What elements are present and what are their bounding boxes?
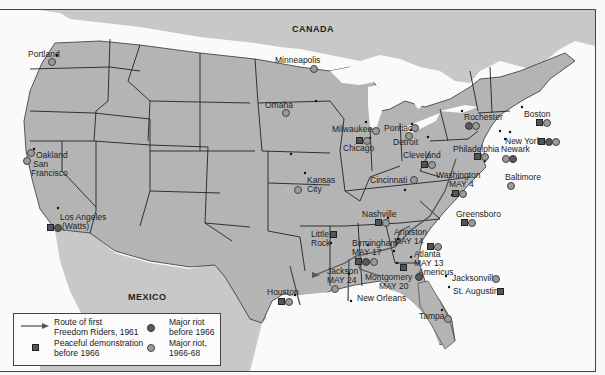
city-label-boston: Boston <box>524 110 550 119</box>
city-label-tampa: Tampa <box>419 312 445 321</box>
riot-1966-68-marker <box>294 186 302 194</box>
peaceful-demonstration-marker <box>375 219 382 226</box>
riot-1966-68-marker <box>331 285 339 293</box>
riot-1966-68-marker <box>428 161 436 169</box>
map-legend: Route of first Freedom Riders, 1961 Peac… <box>13 313 221 366</box>
route-date-montgomery: MAY 20 <box>379 282 408 291</box>
riot-1966-68-marker <box>27 149 35 157</box>
city-label-detroit: Detroit <box>393 138 418 147</box>
legend-riot-after-label: Major riot, 1966-68 <box>169 339 207 358</box>
riot-before-1966-marker <box>54 224 62 232</box>
legend-riot-before-label: Major riot before 1966 <box>169 318 214 337</box>
city-label-jacksonville: Jacksonville <box>452 274 498 283</box>
peaceful-demonstration-marker <box>452 190 459 197</box>
riot-before-1966-marker <box>362 258 370 266</box>
legend-route-label: Route of first Freedom Riders, 1961 <box>54 318 139 337</box>
riot-1966-68-marker <box>363 137 371 145</box>
riot-before-1966-icon <box>147 324 155 332</box>
city-label-cincinnati: Cincinnati <box>370 176 407 185</box>
city-label-st-augustine: St. Augustine <box>453 287 503 296</box>
city-label-san-francisco-line2: Francisco <box>31 169 68 178</box>
city-label-little-rock-line2: Rock <box>311 239 330 248</box>
city-label-americus: Americus <box>418 268 453 277</box>
riot-1966-68-marker <box>410 176 418 184</box>
route-date-jackson: MAY 24 <box>327 276 356 285</box>
city-label-los-angeles-line2: (Watts) <box>62 222 89 231</box>
riot-1966-68-marker <box>411 124 419 132</box>
city-label-nashville: Nashville <box>362 210 397 219</box>
city-label-rochester: Rochester <box>464 113 503 122</box>
route-arrow-icon <box>21 322 49 330</box>
peaceful-demonstration-marker <box>536 119 543 126</box>
peaceful-demonstration-marker <box>356 137 363 144</box>
peaceful-demonstration-marker <box>474 153 481 160</box>
country-label-canada: CANADA <box>292 24 334 34</box>
peaceful-demonstration-marker <box>330 231 337 238</box>
city-label-baltimore: Baltimore <box>505 173 541 182</box>
riot-1966-68-marker <box>370 258 378 266</box>
riot-1966-68-marker <box>481 153 489 161</box>
legend-peaceful-label: Peaceful demonstration before 1966 <box>54 339 143 358</box>
country-label-mexico: MEXICO <box>128 292 167 302</box>
riot-1966-68-marker <box>310 65 318 73</box>
riot-1966-68-marker <box>472 122 480 130</box>
riot-1966-68-marker <box>48 58 56 66</box>
riot-1966-68-marker <box>552 138 560 146</box>
route-date-birmingham: MAY 17 <box>352 248 381 257</box>
peaceful-demonstration-marker <box>400 264 407 271</box>
riot-before-1966-marker <box>509 155 517 163</box>
peaceful-demonstration-marker <box>278 298 285 305</box>
city-label-milwaukee: Milwaukee <box>332 125 372 134</box>
riot-1966-68-marker <box>282 109 290 117</box>
city-label-cleveland: Cleveland <box>403 151 441 160</box>
city-label-minneapolis: Minneapolis <box>275 56 320 65</box>
route-date-anniston: MAY 14 <box>394 237 423 246</box>
map-figure: CANADA MEXICO Portland Oakland San Franc… <box>0 0 605 375</box>
riot-1966-68-marker <box>543 119 551 127</box>
peaceful-demonstration-marker <box>355 258 362 265</box>
riot-1966-68-marker <box>444 315 452 323</box>
peaceful-demonstration-marker <box>497 288 504 295</box>
city-label-kansas-city-line2: City <box>307 185 322 194</box>
riot-1966-68-marker <box>507 182 515 190</box>
riot-1966-68-marker <box>492 275 500 283</box>
map-frame: CANADA MEXICO Portland Oakland San Franc… <box>0 9 596 372</box>
peaceful-demonstration-icon <box>32 344 39 351</box>
riot-1966-68-marker <box>372 127 380 135</box>
city-label-newark: Newark <box>501 145 530 154</box>
riot-before-1966-marker <box>415 273 423 281</box>
city-label-greensboro: Greensboro <box>456 210 501 219</box>
riot-1966-68-marker <box>382 219 390 227</box>
peaceful-demonstration-marker <box>421 161 428 168</box>
city-label-new-orleans: New Orleans <box>357 294 406 303</box>
city-label-omaha: Omaha <box>265 101 293 110</box>
route-date-washington: MAY 4 <box>449 180 474 189</box>
city-label-portland: Portland <box>28 50 60 59</box>
peaceful-demonstration-marker <box>461 219 468 226</box>
riot-1966-68-marker <box>459 190 467 198</box>
peaceful-demonstration-marker <box>47 224 54 231</box>
city-label-chicago: Chicago <box>343 144 374 153</box>
riot-1966-68-marker <box>285 298 293 306</box>
peaceful-demonstration-marker <box>538 138 545 145</box>
riot-1966-68-icon <box>147 344 155 352</box>
riot-1966-68-marker <box>405 132 413 140</box>
city-label-houston: Houston <box>267 288 299 297</box>
riot-1966-68-marker <box>468 219 476 227</box>
riot-1966-68-marker <box>23 157 31 165</box>
